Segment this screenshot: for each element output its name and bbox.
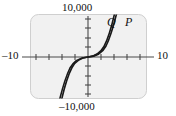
y-max-axis-label: 10,000: [62, 2, 92, 13]
x-min-axis-label: –10: [2, 50, 19, 61]
graph-figure: 10,000 –10,000 –10 10 Q P: [0, 0, 176, 116]
curve-label-p: P: [125, 16, 132, 28]
coordinate-plane-svg: [0, 0, 176, 116]
curve-label-q: Q: [107, 16, 116, 28]
x-max-axis-label: 10: [157, 50, 168, 61]
y-min-axis-label: –10,000: [59, 101, 95, 112]
